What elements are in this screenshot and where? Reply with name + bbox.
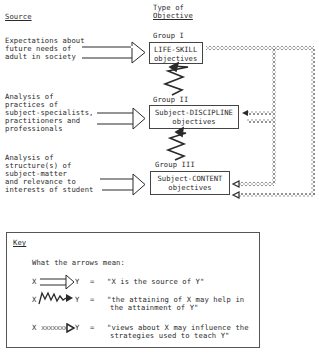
key-1-meaning: "X is the source of Y" <box>107 278 204 287</box>
key-3-meaning-line2: strategies used to teach Y" <box>110 332 230 341</box>
diagram-arrows <box>0 0 319 232</box>
source-arrow-1 <box>82 42 145 63</box>
cross-line-arrows <box>206 46 315 198</box>
key-legend-box: Key What the arrows mean: X Y = "X is th… <box>6 232 260 348</box>
key-3-eq: = <box>90 324 94 333</box>
key-3-cross-marks: xxxxxxx <box>41 324 67 333</box>
key-1-x: X <box>32 278 36 287</box>
zigzag-arrow-3-to-2 <box>168 128 186 160</box>
key-intro: What the arrows mean: <box>32 259 125 268</box>
key-1-eq: = <box>90 278 94 287</box>
zigzag-arrow-2-to-1 <box>165 63 188 95</box>
key-2-meaning-line2: the attainment of Y" <box>110 304 199 313</box>
key-1-y: Y <box>75 278 79 287</box>
key-3-x: X <box>32 324 36 333</box>
key-2-y: Y <box>75 296 79 305</box>
zigzag-arrow-icon <box>38 290 78 306</box>
key-title: Key <box>13 239 26 248</box>
source-arrow-3 <box>100 174 145 195</box>
key-2-eq: = <box>90 296 94 305</box>
double-line-arrow-icon <box>39 274 79 290</box>
key-3-y: Y <box>75 324 79 333</box>
key-2-x: X <box>32 296 36 305</box>
source-arrow-2 <box>97 108 145 129</box>
